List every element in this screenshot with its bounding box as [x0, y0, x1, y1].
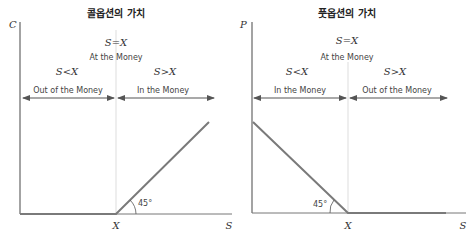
call-option-chart: 콜옵션의 가치 C S=X At the Money S<X S>X Out o…: [9, 7, 233, 231]
put-angle-label: 45°: [313, 200, 327, 209]
call-angle-arc: [130, 200, 136, 214]
put-atm-label: At the Money: [320, 53, 373, 62]
call-strike-label: X: [111, 220, 120, 231]
put-right-condition: S>X: [384, 66, 407, 77]
put-strike-label: X: [343, 220, 352, 231]
call-right-condition: S>X: [154, 66, 177, 77]
put-atm-condition: S=X: [336, 35, 359, 46]
put-left-label: In the Money: [274, 86, 326, 95]
put-left-condition: S<X: [286, 66, 309, 77]
call-left-label: Out of the Money: [33, 86, 103, 95]
put-x-axis-label: S: [460, 220, 467, 231]
call-angle-label: 45°: [138, 199, 152, 208]
call-atm-label: At the Money: [89, 53, 142, 62]
put-title: 풋옵션의 가치: [318, 7, 375, 19]
option-value-diagrams: 콜옵션의 가치 C S=X At the Money S<X S>X Out o…: [0, 0, 475, 244]
call-right-label: In the Money: [137, 86, 189, 95]
put-right-label: Out of the Money: [362, 86, 432, 95]
put-payoff-line: [253, 122, 446, 213]
call-x-axis-label: S: [226, 220, 233, 231]
call-y-axis-label: C: [9, 19, 17, 30]
call-title: 콜옵션의 가치: [87, 7, 144, 19]
call-payoff-line: [20, 122, 209, 214]
call-left-condition: S<X: [56, 66, 79, 77]
put-option-chart: 풋옵션의 가치 P S=X At the Money S<X S>X In th…: [239, 7, 467, 231]
call-atm-condition: S=X: [105, 37, 128, 48]
put-angle-arc: [330, 200, 334, 213]
put-y-axis-label: P: [239, 19, 247, 30]
